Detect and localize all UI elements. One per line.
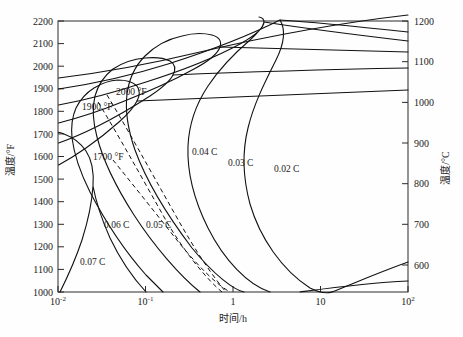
x-tick-base: 10 bbox=[138, 296, 148, 307]
cct-diagram: 2200 2100 2000 1900 1800 1700 1600 1500 … bbox=[0, 0, 463, 337]
x-tick-label-1e-1: 10-1 bbox=[138, 295, 154, 307]
label-0-02-c: 0.02 C bbox=[274, 164, 299, 174]
x-tick-exponent: -2 bbox=[60, 295, 66, 303]
x-axis-title: 时间/h bbox=[219, 312, 247, 324]
x-axis-tick-labels: 10-2 10-1 1 10 102 bbox=[50, 295, 415, 307]
x-tick-label-10: 10 bbox=[316, 296, 326, 307]
dashed-line-2000f bbox=[107, 95, 226, 292]
x-tick-label-1: 1 bbox=[231, 296, 236, 307]
curve-envelope-upper-4 bbox=[173, 68, 408, 75]
left-tick-label: 2100 bbox=[33, 38, 53, 49]
left-tick-label: 1900 bbox=[33, 83, 53, 94]
curve-0-03-c bbox=[59, 17, 270, 292]
x-tick-exponent: -1 bbox=[148, 295, 154, 303]
left-tick-label: 1500 bbox=[33, 174, 53, 185]
left-tick-label: 1400 bbox=[33, 196, 53, 207]
dashed-line-1900f bbox=[98, 102, 222, 292]
label-2000f: 2000 °F bbox=[116, 87, 146, 97]
left-tick-label: 1700 bbox=[33, 129, 53, 140]
x-tick-base: 10 bbox=[50, 296, 60, 307]
x-tick-label-1e-2: 10-2 bbox=[50, 295, 66, 307]
left-axis-tick-labels: 2200 2100 2000 1900 1800 1700 1600 1500 … bbox=[33, 16, 53, 298]
left-tick-label: 1800 bbox=[33, 106, 53, 117]
right-tick-label: 1000 bbox=[414, 97, 434, 108]
x-tick-label-1e2: 102 bbox=[401, 295, 415, 307]
curve-envelope-upper-3 bbox=[220, 47, 408, 52]
label-0-05-c: 0.05 C bbox=[146, 220, 171, 230]
right-axis-tick-labels: 1200 1100 1000 900 800 700 600 bbox=[414, 16, 434, 271]
right-tick-label: 800 bbox=[414, 178, 429, 189]
label-0-04-c: 0.04 C bbox=[192, 147, 217, 157]
label-1700f: 1700 °F bbox=[93, 152, 123, 162]
curve-0-04-c bbox=[59, 34, 244, 292]
x-tick-base: 10 bbox=[401, 296, 411, 307]
x-tick-exponent: 2 bbox=[411, 295, 415, 303]
left-axis-ticks bbox=[58, 21, 64, 292]
left-tick-label: 1200 bbox=[33, 241, 53, 252]
y-right-axis-title: 温度/°C bbox=[439, 151, 451, 185]
label-0-03-c: 0.03 C bbox=[228, 158, 253, 168]
right-tick-label: 700 bbox=[414, 219, 429, 230]
left-tick-label: 1100 bbox=[33, 264, 53, 275]
label-0-06-c: 0.06 C bbox=[104, 220, 129, 230]
curve-tail-lower-1 bbox=[332, 262, 408, 292]
right-tick-label: 1200 bbox=[414, 16, 434, 27]
right-tick-label: 600 bbox=[414, 260, 429, 271]
right-axis-ticks bbox=[402, 21, 408, 265]
right-tick-label: 1100 bbox=[414, 56, 434, 67]
y-left-axis-title: 温度/°F bbox=[4, 143, 16, 176]
curve-envelope-upper-1 bbox=[280, 20, 408, 32]
left-tick-label: 2000 bbox=[33, 61, 53, 72]
curve-envelope-upper-5 bbox=[137, 90, 408, 101]
left-tick-label: 1300 bbox=[33, 219, 53, 230]
right-tick-label: 900 bbox=[414, 138, 429, 149]
chart-page: 2200 2100 2000 1900 1800 1700 1600 1500 … bbox=[0, 0, 463, 337]
left-tick-label: 1600 bbox=[33, 151, 53, 162]
label-0-07-c: 0.07 C bbox=[80, 257, 105, 267]
label-1900f: 1900 °F bbox=[82, 102, 112, 112]
left-tick-label: 2200 bbox=[33, 16, 53, 27]
